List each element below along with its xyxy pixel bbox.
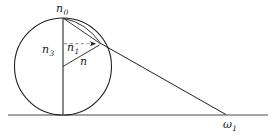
- label-n1: n1: [67, 42, 79, 53]
- label-omega1-sub: 1: [232, 124, 237, 133]
- label-omega1: ω1: [223, 119, 237, 130]
- figure-root: n0 n3 n1 n ω1: [0, 0, 280, 138]
- label-n1-sub: 1: [74, 47, 79, 56]
- label-n3: n3: [42, 44, 54, 55]
- label-n0: n0: [56, 3, 68, 14]
- label-omega1-base: ω: [223, 118, 232, 131]
- diagram-canvas: [0, 0, 280, 138]
- tangent-line-to-ground: [101, 44, 226, 115]
- label-n0-sub: 0: [63, 8, 68, 17]
- label-n3-sub: 3: [49, 49, 54, 58]
- label-n-base: n: [80, 55, 87, 68]
- label-n: n: [80, 56, 87, 67]
